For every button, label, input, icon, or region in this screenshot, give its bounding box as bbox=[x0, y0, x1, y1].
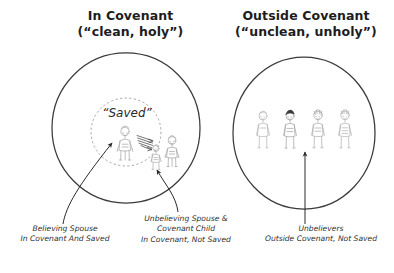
caption-believing-spouse-line2: In Covenant And Saved bbox=[2, 234, 128, 244]
saved-label: “Saved” bbox=[96, 106, 158, 120]
heading-in-covenant: In Covenant (“clean, holy”) bbox=[38, 8, 223, 39]
caption-unbelievers-line2: Outside Covenant, Not Saved bbox=[248, 234, 394, 244]
unbeliever-figure-3 bbox=[312, 110, 325, 148]
arrow-believing-spouse bbox=[63, 143, 112, 224]
believing-spouse-figure bbox=[117, 126, 133, 160]
unbeliever-figure-1 bbox=[257, 111, 270, 148]
caption-believing-spouse: Believing Spouse In Covenant And Saved bbox=[2, 224, 128, 245]
caption-unbelieving-spouse-child: Unbelieving Spouse & Covenant Child In C… bbox=[122, 214, 250, 245]
influence-rays bbox=[137, 136, 153, 151]
in-covenant-circle bbox=[52, 53, 200, 203]
caption-unbelieving-spouse-child-line3: In Covenant, Not Saved bbox=[122, 235, 250, 245]
caption-unbelieving-spouse-child-line1: Unbelieving Spouse & bbox=[122, 214, 250, 224]
caption-unbelieving-spouse-child-line2: Covenant Child bbox=[122, 224, 250, 234]
heading-outside-covenant-line2: (“unclean, unholy”) bbox=[218, 24, 394, 40]
covenant-diagram: In Covenant (“clean, holy”) Outside Cove… bbox=[0, 0, 394, 273]
unbeliever-figure-2 bbox=[284, 110, 297, 148]
heading-outside-covenant: Outside Covenant (“unclean, unholy”) bbox=[218, 8, 394, 39]
unbelieving-spouse-figure bbox=[165, 136, 179, 167]
heading-in-covenant-line1: In Covenant bbox=[88, 8, 174, 23]
unbeliever-figure-4 bbox=[339, 110, 352, 148]
heading-in-covenant-line2: (“clean, holy”) bbox=[38, 24, 223, 40]
covenant-child-figure bbox=[151, 145, 161, 170]
caption-unbelievers-line1: Unbelievers bbox=[248, 224, 394, 234]
caption-believing-spouse-line1: Believing Spouse bbox=[2, 224, 128, 234]
caption-unbelievers: Unbelievers Outside Covenant, Not Saved bbox=[248, 224, 394, 245]
heading-outside-covenant-line1: Outside Covenant bbox=[242, 8, 369, 23]
outside-covenant-circle bbox=[233, 57, 375, 209]
